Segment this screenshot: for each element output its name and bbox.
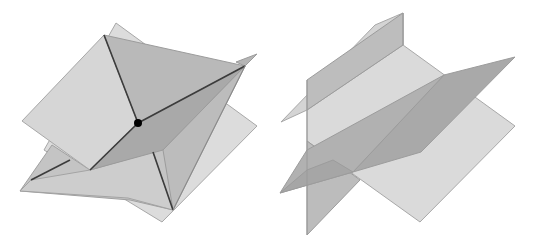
diagram-canvas: Intersecting planes in 3D <box>0 0 536 248</box>
right-panel-three-planes-parallel <box>0 0 536 248</box>
